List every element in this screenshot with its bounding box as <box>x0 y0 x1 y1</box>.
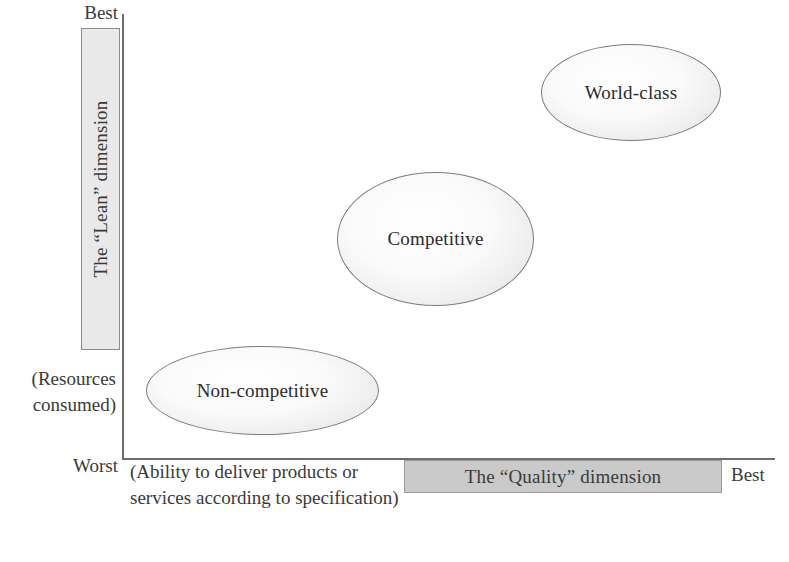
x-axis-best-label: Best <box>731 464 765 486</box>
bubble-non-competitive: Non-competitive <box>146 346 379 435</box>
y-axis-line <box>122 14 124 460</box>
y-axis-worst-label: Worst <box>0 455 118 477</box>
quality-dimension-bar: The “Quality” dimension <box>404 460 722 493</box>
bubble-non-competitive-label: Non-competitive <box>197 380 329 402</box>
y-axis-parenthetical-line1: (Resources <box>0 366 116 392</box>
bubble-competitive: Competitive <box>337 172 534 306</box>
lean-dimension-label: The “Lean” dimension <box>90 100 112 277</box>
lean-dimension-bar: The “Lean” dimension <box>81 28 120 350</box>
bubble-world-class: World-class <box>541 44 721 141</box>
diagram-canvas: Best Worst (Resources consumed) The “Lea… <box>0 0 789 562</box>
y-axis-parenthetical: (Resources consumed) <box>0 366 116 418</box>
bubble-competitive-label: Competitive <box>387 228 483 250</box>
x-axis-parenthetical: (Ability to deliver products or services… <box>130 459 410 511</box>
bubble-world-class-label: World-class <box>585 82 677 104</box>
y-axis-best-label: Best <box>0 2 118 24</box>
y-axis-parenthetical-line2: consumed) <box>0 392 116 418</box>
quality-dimension-label: The “Quality” dimension <box>465 466 662 488</box>
